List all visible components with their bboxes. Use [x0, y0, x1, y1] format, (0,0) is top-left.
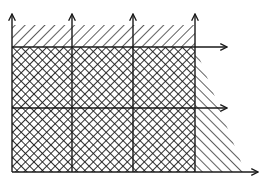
right-hatch-wedge	[195, 47, 245, 172]
top-hatch-band	[12, 25, 195, 47]
crosshatch-grid	[12, 47, 195, 172]
region-diagram	[0, 0, 264, 187]
diagram-canvas	[0, 0, 264, 187]
